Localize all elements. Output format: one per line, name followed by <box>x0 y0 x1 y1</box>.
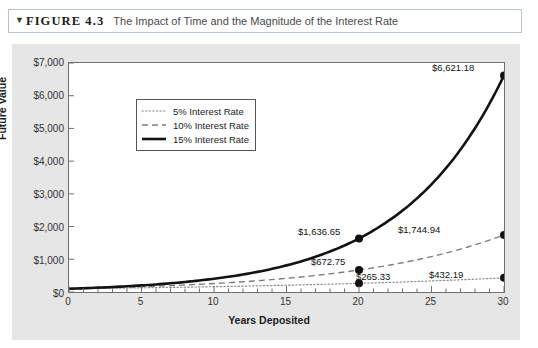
figure-container: ▼ FIGURE 4.3 The Impact of Time and the … <box>0 0 538 348</box>
y-tick-6000: $6,000 <box>33 90 64 101</box>
legend-label-10-percent: 10% Interest Rate <box>173 120 249 131</box>
figure-title-bar: ▼ FIGURE 4.3 The Impact of Time and the … <box>8 9 522 33</box>
figure-title-text: The Impact of Time and the Magnitude of … <box>113 15 398 27</box>
y-tick-0: $0 <box>53 288 64 299</box>
plot-area <box>68 62 505 293</box>
data-label-1744: $1,744.94 <box>398 224 440 235</box>
legend-item-10-percent: 10% Interest Rate <box>141 118 250 132</box>
chart-legend: 5% Interest Rate 10% Interest Rate 15% I… <box>136 99 256 151</box>
legend-swatch-solid <box>141 134 167 144</box>
x-tick-5: 5 <box>138 296 144 307</box>
data-label-265: $265.33 <box>356 271 390 282</box>
data-point-marker <box>500 274 504 282</box>
x-axis-tick-labels: 0 5 10 15 20 25 30 <box>68 296 505 312</box>
data-label-6621: $6,621.18 <box>432 62 474 73</box>
y-axis-title: Future Value <box>0 77 8 140</box>
legend-swatch-dotted <box>141 106 167 116</box>
data-label-1636: $1,636.65 <box>298 226 340 237</box>
data-point-markers <box>355 71 504 287</box>
y-tick-4000: $4,000 <box>33 156 64 167</box>
figure-number-label: FIGURE 4.3 <box>26 14 104 29</box>
line-series-10-percent <box>69 235 504 289</box>
line-series-15-percent <box>69 75 504 288</box>
data-point-marker <box>355 234 363 242</box>
y-axis-tick-labels: $0 $1,000 $2,000 $3,000 $4,000 $5,000 $6… <box>0 62 64 293</box>
x-axis-title: Years Deposited <box>0 314 538 326</box>
x-tick-10: 10 <box>207 296 218 307</box>
triangle-down-icon: ▼ <box>15 16 24 25</box>
x-tick-30: 30 <box>497 296 508 307</box>
data-label-432: $432.19 <box>429 269 463 280</box>
x-tick-20: 20 <box>352 296 363 307</box>
data-label-672: $672.75 <box>311 256 345 267</box>
y-tick-3000: $3,000 <box>33 189 64 200</box>
data-point-marker <box>500 71 504 79</box>
legend-label-5-percent: 5% Interest Rate <box>173 106 244 117</box>
plot-svg <box>69 63 504 292</box>
legend-label-15-percent: 15% Interest Rate <box>173 134 249 145</box>
y-tick-1000: $1,000 <box>33 255 64 266</box>
legend-item-15-percent: 15% Interest Rate <box>141 132 250 146</box>
data-point-marker <box>500 231 504 239</box>
legend-item-5-percent: 5% Interest Rate <box>141 104 250 118</box>
x-tick-15: 15 <box>280 296 291 307</box>
x-tick-0: 0 <box>65 296 71 307</box>
y-tick-7000: $7,000 <box>33 57 64 68</box>
y-tick-5000: $5,000 <box>33 123 64 134</box>
legend-swatch-dashed <box>141 120 167 130</box>
x-tick-25: 25 <box>425 296 436 307</box>
y-tick-2000: $2,000 <box>33 222 64 233</box>
